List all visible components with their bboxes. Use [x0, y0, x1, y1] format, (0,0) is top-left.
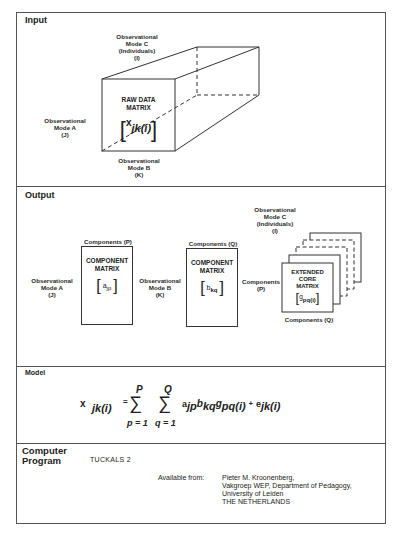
section-title-program: Computer Program — [22, 446, 67, 466]
formula-lhs: x — [80, 397, 86, 409]
core-bottom-label: Components (Q) — [277, 316, 341, 323]
formula-equals: = — [123, 397, 128, 406]
available-from-label: Available from: — [158, 474, 204, 482]
program-name: TUCKALS 2 — [90, 456, 131, 464]
sum1-sigma-icon: ∑ — [129, 393, 142, 414]
core-element: [gpq(i)] — [282, 290, 333, 305]
formula-terms: ajpbkqgpq(i) + ejk(i) — [182, 398, 280, 412]
sum1-bottom: p = 1 — [127, 418, 148, 428]
extended-core-matrix: EXTENDED CORE MATRIX [gpq(i)] — [282, 263, 333, 312]
formula-lhs-sub: jk(i) — [92, 402, 112, 414]
program-address: Pieter M. Kroonenberg, Vakgroep WEP, Dep… — [222, 474, 352, 506]
core-title: EXTENDED CORE MATRIX — [282, 269, 333, 290]
sum2-bottom: q = 1 — [155, 418, 176, 428]
section-title-model: Model — [25, 369, 45, 376]
core-left-label: Components (P) — [238, 278, 284, 292]
sum2-sigma-icon: ∑ — [158, 393, 171, 414]
